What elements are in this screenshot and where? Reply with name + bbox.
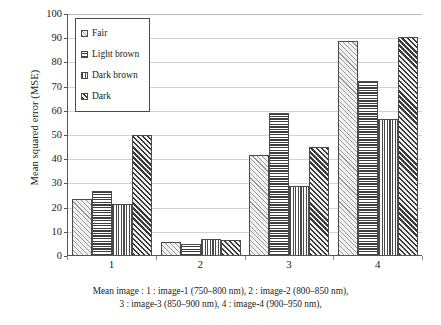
bar-dark[interactable] [221, 240, 241, 255]
legend-swatch-icon [81, 30, 88, 37]
y-axis-tick-label: 40 [36, 154, 62, 165]
legend-item-label: Light brown [92, 50, 139, 60]
legend-item[interactable]: Dark brown [81, 65, 144, 86]
bar-dark[interactable] [398, 37, 418, 255]
bar-fair[interactable] [72, 199, 92, 255]
bar-dark[interactable] [132, 135, 152, 255]
y-axis-tick-label: 0 [36, 251, 62, 262]
figure-caption: Mean image : 1 : image-1 (750–800 nm), 2… [0, 285, 441, 312]
y-axis-tick-labels: 0102030405060708090100 [36, 14, 62, 256]
legend-item-label: Dark brown [92, 71, 138, 81]
bar-dark-brown[interactable] [201, 239, 221, 255]
legend-item[interactable]: Light brown [81, 44, 144, 65]
legend-swatch-icon [81, 51, 88, 58]
caption-line-1: Mean image : 1 : image-1 (750–800 nm), 2… [0, 285, 441, 298]
caption-line-2: 3 : image-3 (850–900 nm), 4 : image-4 (9… [0, 298, 441, 311]
bar-group [157, 14, 246, 255]
y-axis-tick-label: 10 [36, 227, 62, 238]
legend-item-label: Fair [92, 29, 107, 39]
bar-dark-brown[interactable] [378, 119, 398, 255]
bar-dark-brown[interactable] [112, 204, 132, 255]
y-axis-tick-label: 80 [36, 57, 62, 68]
y-axis-tick-label: 50 [36, 130, 62, 141]
bar-dark[interactable] [309, 147, 329, 255]
bar-chart-figure: Mean squared error (MSE) 010203040506070… [0, 0, 441, 325]
y-axis-tick-label: 90 [36, 33, 62, 44]
chart-legend: FairLight brownDark brownDark [75, 18, 150, 112]
y-axis-tick-label: 20 [36, 202, 62, 213]
x-axis-tick-labels: 1234 [67, 258, 422, 270]
y-axis-tick-label: 30 [36, 178, 62, 189]
legend-item[interactable]: Dark [81, 86, 144, 107]
y-axis-tick-label: 60 [36, 106, 62, 117]
bar-dark-brown[interactable] [289, 186, 309, 255]
bar-group [334, 14, 423, 255]
bar-light-brown[interactable] [269, 113, 289, 255]
bar-fair[interactable] [161, 242, 181, 255]
bar-group [245, 14, 334, 255]
y-axis-tick-label: 100 [36, 9, 62, 20]
x-axis-tick-label: 3 [245, 258, 334, 270]
legend-swatch-icon [81, 93, 88, 100]
y-axis-tick-label: 70 [36, 81, 62, 92]
bar-light-brown[interactable] [181, 244, 201, 255]
legend-swatch-icon [81, 72, 88, 79]
x-axis-tick-mark [422, 256, 423, 260]
x-axis-tick-label: 1 [67, 258, 156, 270]
x-axis-tick-label: 4 [333, 258, 422, 270]
x-axis-tick-label: 2 [156, 258, 245, 270]
legend-item-label: Dark [92, 92, 111, 102]
bar-light-brown[interactable] [92, 191, 112, 255]
bar-fair[interactable] [338, 41, 358, 255]
legend-item[interactable]: Fair [81, 23, 144, 44]
plot-container: Mean squared error (MSE) 010203040506070… [0, 0, 441, 285]
bar-fair[interactable] [249, 155, 269, 255]
bar-light-brown[interactable] [358, 81, 378, 255]
